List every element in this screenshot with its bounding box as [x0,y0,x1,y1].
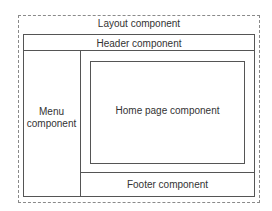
menu-divider [80,50,81,197]
header-component-label: Header component [23,38,255,50]
menu-component-label: Menu component [23,106,80,130]
header-divider [23,50,255,51]
home-page-component-label: Home page component [90,105,245,117]
layout-component-label: Layout component [18,18,260,30]
menu-label-line2: component [23,118,80,130]
footer-component-label: Footer component [80,179,255,191]
menu-label-line1: Menu [23,106,80,118]
footer-divider [80,172,255,173]
